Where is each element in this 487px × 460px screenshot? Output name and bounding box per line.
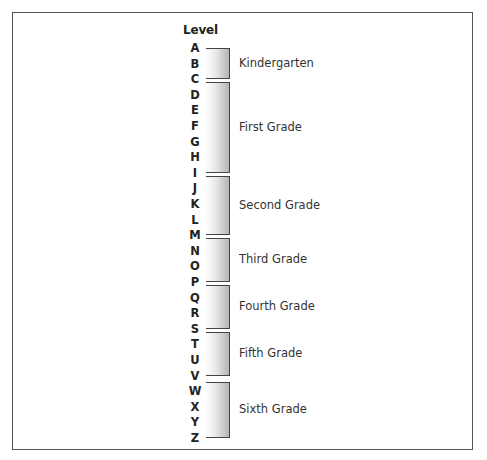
grade-label: Sixth Grade xyxy=(239,402,307,416)
grade-bracket xyxy=(206,238,230,282)
level-letter: X xyxy=(185,400,205,414)
grade-bracket xyxy=(206,48,230,79)
level-letter: B xyxy=(185,57,205,71)
level-letter: V xyxy=(185,369,205,383)
grade-label: Kindergarten xyxy=(239,56,314,70)
level-letter: M xyxy=(185,228,205,242)
level-letter: C xyxy=(185,72,205,86)
level-letter: A xyxy=(185,41,205,55)
grade-bracket xyxy=(206,332,230,376)
level-letter: P xyxy=(185,275,205,289)
level-letter: H xyxy=(185,150,205,164)
grade-bracket xyxy=(206,176,230,235)
level-letter: O xyxy=(185,259,205,273)
level-letter: I xyxy=(185,166,205,180)
level-letter: E xyxy=(185,103,205,117)
level-letter: L xyxy=(185,213,205,227)
grade-label: Third Grade xyxy=(239,252,307,266)
grade-label: First Grade xyxy=(239,120,302,134)
level-letter: F xyxy=(185,119,205,133)
level-letter: D xyxy=(185,88,205,102)
level-heading: Level xyxy=(183,23,218,37)
level-letter: J xyxy=(185,181,205,195)
level-letter: W xyxy=(185,384,205,398)
diagram-frame xyxy=(12,12,473,450)
grade-bracket xyxy=(206,285,230,329)
level-letter: Z xyxy=(185,431,205,445)
level-letter: T xyxy=(185,337,205,351)
level-letter: G xyxy=(185,135,205,149)
grade-label: Second Grade xyxy=(239,198,320,212)
level-letter: K xyxy=(185,197,205,211)
level-letter: Q xyxy=(185,291,205,305)
grade-label: Fifth Grade xyxy=(239,346,302,360)
level-letter: Y xyxy=(185,415,205,429)
level-letter: R xyxy=(185,306,205,320)
grade-bracket xyxy=(206,382,230,438)
level-letter: U xyxy=(185,353,205,367)
level-letter: N xyxy=(185,244,205,258)
grade-bracket xyxy=(206,82,230,173)
level-letter: S xyxy=(185,322,205,336)
grade-label: Fourth Grade xyxy=(239,299,315,313)
